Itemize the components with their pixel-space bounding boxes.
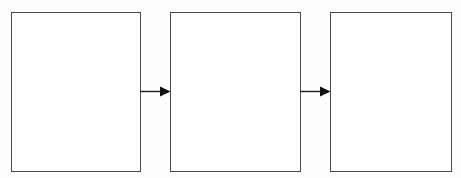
flow-diagram-canvas bbox=[0, 0, 461, 178]
process-box-3-label bbox=[331, 13, 451, 171]
connector-arrow-2 bbox=[300, 83, 331, 101]
process-box-2[interactable] bbox=[170, 12, 301, 172]
process-box-3[interactable] bbox=[330, 12, 452, 172]
arrow-right-icon bbox=[140, 83, 171, 101]
process-box-1-label bbox=[12, 13, 140, 171]
process-box-1[interactable] bbox=[11, 12, 141, 172]
arrow-right-icon bbox=[300, 83, 331, 101]
connector-arrow-1 bbox=[140, 83, 171, 101]
process-box-2-label bbox=[171, 13, 300, 171]
